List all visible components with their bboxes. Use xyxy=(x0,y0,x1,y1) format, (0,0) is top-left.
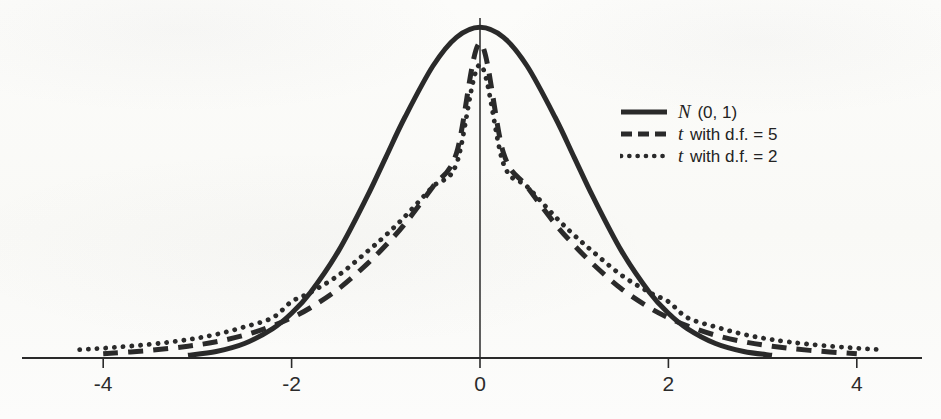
legend-item-normal: N (0, 1) xyxy=(620,101,890,123)
chart-legend: N (0, 1) t with d.f. = 5 t with d.f. = 2 xyxy=(620,101,890,167)
legend-item-t2: t with d.f. = 2 xyxy=(620,145,890,167)
legend-item-t5: t with d.f. = 5 xyxy=(620,123,890,145)
legend-label-normal: N (0, 1) xyxy=(678,103,737,121)
x-axis-tick-label: -2 xyxy=(262,372,322,396)
x-axis-tick-label: 2 xyxy=(638,372,698,396)
legend-swatch-dotted-icon xyxy=(620,149,668,163)
x-axis-tick-label: 4 xyxy=(827,372,887,396)
legend-label-t5: t with d.f. = 5 xyxy=(678,125,777,143)
legend-swatch-solid-icon xyxy=(620,105,668,119)
legend-symbol-normal: N xyxy=(678,101,693,122)
legend-text-t2: with d.f. = 2 xyxy=(685,147,777,166)
legend-label-t2: t with d.f. = 2 xyxy=(678,147,777,165)
x-axis-tick-label: -4 xyxy=(73,372,133,396)
legend-swatch-dashed-icon xyxy=(620,127,668,141)
legend-text-normal: (0, 1) xyxy=(693,103,737,122)
x-axis-ticks xyxy=(103,358,857,368)
distribution-comparison-figure: -4-2024 N (0, 1) t with d.f. = 5 xyxy=(0,0,941,419)
plot-canvas xyxy=(0,0,941,419)
legend-text-t5: with d.f. = 5 xyxy=(685,125,777,144)
x-axis-tick-label: 0 xyxy=(450,372,510,396)
